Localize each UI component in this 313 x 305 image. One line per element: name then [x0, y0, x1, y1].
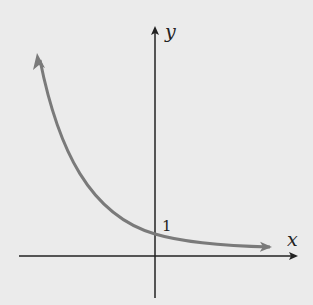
- y-axis-label: y: [164, 20, 176, 42]
- y-intercept-label: 1: [162, 217, 172, 235]
- curve-arrowhead-left: [33, 53, 45, 70]
- x-axis-label: x: [287, 228, 298, 250]
- exponential-graph: y x 1: [0, 0, 313, 305]
